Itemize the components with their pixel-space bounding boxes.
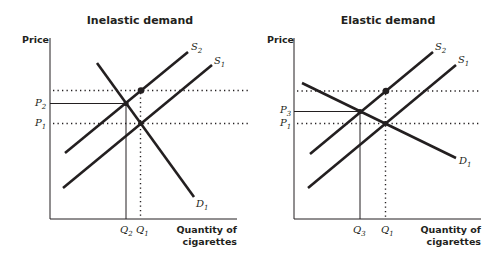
panel-title-inelastic: Inelastic demand xyxy=(87,14,193,27)
label-d1: D1 xyxy=(195,198,209,212)
original-equilibrium-point xyxy=(383,121,388,126)
tax-incidence-figure: Inelastic demand Price S2 S1 D1 P2 P1 Q2… xyxy=(0,0,503,262)
x-axis-label-line1: Quantity of xyxy=(176,224,237,235)
label-p1: P1 xyxy=(34,117,46,131)
label-p1: P1 xyxy=(279,117,291,131)
y-axis-label: Price xyxy=(22,34,49,45)
x-axis-label-line2: cigarettes xyxy=(183,236,238,247)
label-s1: S1 xyxy=(458,54,469,68)
panel-title-elastic: Elastic demand xyxy=(341,14,436,27)
x-axis-label-line2: cigarettes xyxy=(427,236,482,247)
equilibrium-point-after-tax xyxy=(357,109,362,114)
label-q3: Q3 xyxy=(353,224,366,238)
y-axis-label: Price xyxy=(267,34,294,45)
label-s1: S1 xyxy=(214,55,225,69)
elastic-demand-panel: Elastic demand Price S2 S1 D1 P3 P1 Q3 Q… xyxy=(267,14,482,247)
supply-price-point xyxy=(383,88,390,95)
label-p3: P3 xyxy=(279,104,292,118)
original-equilibrium-point xyxy=(138,121,143,126)
label-p2: P2 xyxy=(34,97,47,111)
supply-curve-s1 xyxy=(63,65,212,188)
supply-price-point xyxy=(138,87,145,94)
label-q1: Q1 xyxy=(136,224,149,238)
label-q1: Q1 xyxy=(381,224,394,238)
label-d1: D1 xyxy=(458,155,472,169)
equilibrium-point-after-tax xyxy=(123,101,128,106)
label-s2: S2 xyxy=(435,41,447,55)
demand-curve-d1 xyxy=(97,63,194,197)
demand-curve-d1 xyxy=(302,83,456,158)
supply-curve-s1 xyxy=(308,65,456,188)
x-axis-label-line1: Quantity of xyxy=(420,224,481,235)
label-q2: Q2 xyxy=(120,224,133,238)
inelastic-demand-panel: Inelastic demand Price S2 S1 D1 P2 P1 Q2… xyxy=(22,14,250,247)
label-s2: S2 xyxy=(191,41,203,55)
